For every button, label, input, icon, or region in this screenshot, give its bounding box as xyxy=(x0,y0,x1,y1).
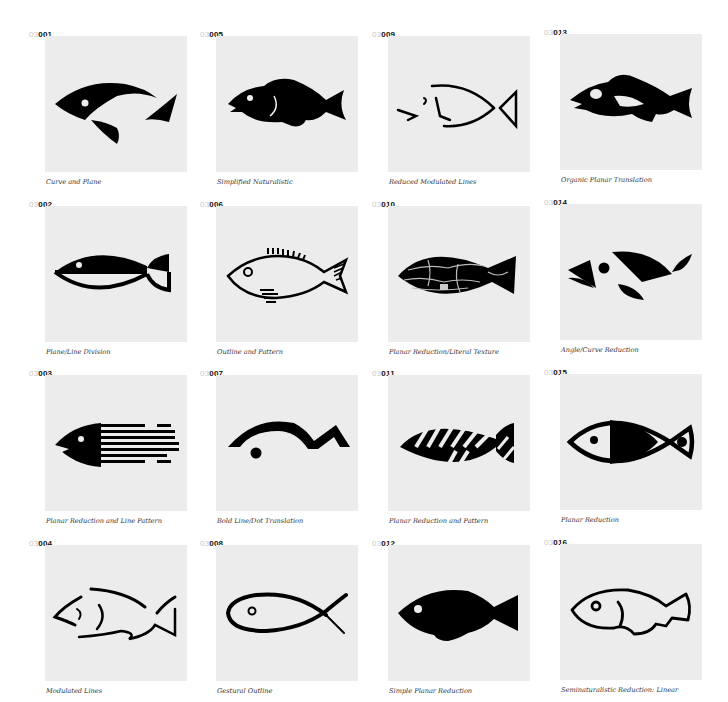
fish-card-004: 03004 Modulated Lines xyxy=(29,539,199,702)
fish-card-008: 03008 Gestural Outline xyxy=(200,539,370,702)
caption: Planar Reduction and Line Pattern xyxy=(46,517,162,525)
fish-card-016: 03016 Seminaturalistic Reduction: Linear xyxy=(544,538,714,702)
fish-card-010: 03010 Planar Reduction/Literal Texture xyxy=(372,200,542,370)
fish-card-012: 03012 Simple Planar Reduction xyxy=(372,539,542,702)
number-prefix: 03 xyxy=(372,200,381,209)
fish-reduced-modulated-lines-icon xyxy=(388,36,530,172)
number-prefix: 03 xyxy=(200,200,209,209)
number-prefix: 03 xyxy=(200,369,209,378)
caption: Organic Planar Translation xyxy=(561,176,652,184)
fish-modulated-lines-icon xyxy=(45,545,187,681)
caption: Plane/Line Division xyxy=(46,348,111,356)
fish-organic-planar-icon xyxy=(560,34,702,170)
caption: Outline and Pattern xyxy=(217,348,283,356)
caption: Reduced Modulated Lines xyxy=(389,178,476,186)
caption: Modulated Lines xyxy=(46,687,102,695)
caption: Curve and Plane xyxy=(46,178,101,186)
fish-card-011: 03011 Planar Reduction and Pattern xyxy=(372,369,542,539)
fish-card-002: 03002 Plane/Line Division xyxy=(29,200,199,370)
fish-card-013: 03013 Organic Planar Translation xyxy=(544,28,714,198)
caption: Gestural Outline xyxy=(217,687,272,695)
fish-card-003: 03003 Planar Reduction and Line Pattern xyxy=(29,369,199,539)
fish-simplified-naturalistic-icon xyxy=(216,36,358,172)
number-prefix: 03 xyxy=(544,538,553,547)
number-prefix: 03 xyxy=(544,368,553,377)
number-prefix: 03 xyxy=(29,30,38,39)
caption: Simple Planar Reduction xyxy=(389,687,472,695)
fish-angle-curve-icon xyxy=(560,204,702,340)
number-prefix: 03 xyxy=(200,539,209,548)
number-prefix: 03 xyxy=(544,198,553,207)
fish-seminaturalistic-linear-icon xyxy=(560,544,702,680)
number-prefix: 03 xyxy=(544,28,553,37)
caption: Planar Reduction and Pattern xyxy=(389,517,488,525)
fish-card-006: 03006 Outline and Pattern xyxy=(200,200,370,370)
number-prefix: 03 xyxy=(29,200,38,209)
caption: Planar Reduction/Literal Texture xyxy=(389,348,499,356)
number-prefix: 03 xyxy=(372,369,381,378)
fish-card-007: 03007 Bold Line/Dot Translation xyxy=(200,369,370,539)
fish-line-pattern-icon xyxy=(45,375,187,511)
number-prefix: 03 xyxy=(372,30,381,39)
number-prefix: 03 xyxy=(372,539,381,548)
caption: Seminaturalistic Reduction: Linear xyxy=(561,686,678,694)
caption: Simplified Naturalistic xyxy=(217,178,293,186)
fish-simple-planar-icon xyxy=(388,545,530,681)
caption: Planar Reduction xyxy=(561,516,619,524)
fish-planar-pattern-icon xyxy=(388,375,530,511)
fish-card-009: 03009 Reduced Modulated Lines xyxy=(372,30,542,200)
caption: Angle/Curve Reduction xyxy=(561,346,639,354)
fish-gestural-outline-icon xyxy=(216,545,358,681)
fish-curve-and-plane-icon xyxy=(45,36,187,172)
fish-planar-reduction-icon xyxy=(560,374,702,510)
fish-card-015: 03015 Planar Reduction xyxy=(544,368,714,538)
caption: Bold Line/Dot Translation xyxy=(217,517,303,525)
number-prefix: 03 xyxy=(29,539,38,548)
fish-card-014: 03014 Angle/Curve Reduction xyxy=(544,198,714,368)
number-prefix: 03 xyxy=(29,369,38,378)
fish-literal-texture-icon xyxy=(388,206,530,342)
fish-card-005: 03005 Simplified Naturalistic xyxy=(200,30,370,200)
fish-card-001: 03001 Curve and Plane xyxy=(29,30,199,200)
number-prefix: 03 xyxy=(200,30,209,39)
fish-outline-pattern-icon xyxy=(216,206,358,342)
fish-bold-line-dot-icon xyxy=(216,375,358,511)
fish-plane-line-division-icon xyxy=(45,206,187,342)
